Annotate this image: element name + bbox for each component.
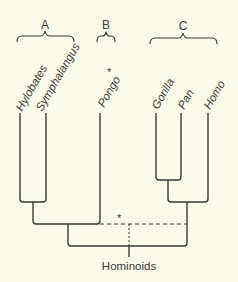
root-label: Hominoids — [102, 260, 157, 272]
tree-branches — [20, 113, 208, 257]
group-label-a: A — [41, 18, 49, 32]
taxon-label-pan: Pan — [175, 87, 196, 111]
pongo-marker: * — [107, 66, 112, 78]
cladogram: A B C Hylobates Symphalangus Pongo * Gor… — [0, 0, 238, 282]
taxon-label-gorilla: Gorilla — [149, 76, 176, 111]
group-label-c: C — [179, 19, 188, 33]
dashed-alternative-branch — [100, 224, 187, 246]
group-label-b: B — [102, 18, 110, 32]
taxon-label-pongo: Pongo — [95, 74, 122, 109]
group-brace-b — [97, 32, 115, 42]
group-brace-a — [17, 31, 74, 42]
taxon-label-homo: Homo — [201, 78, 227, 111]
group-brace-c — [150, 33, 217, 44]
dashed-node-marker: * — [117, 212, 122, 224]
